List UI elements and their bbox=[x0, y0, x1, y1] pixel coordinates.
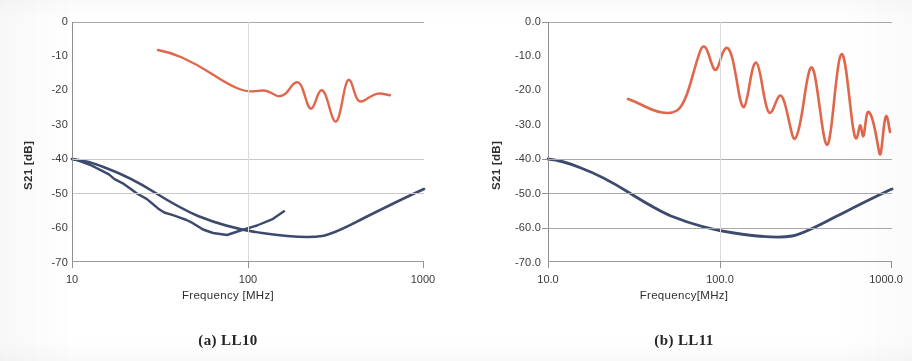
y-tick-label: -20 bbox=[22, 84, 68, 95]
panel-ll10: S21 [dB] 0 -10 -20 -30 -40 -50 -60 -70 bbox=[0, 0, 456, 361]
y-tick-label: -60 bbox=[22, 222, 68, 233]
y-axis-title-a: S21 [dB] bbox=[22, 141, 34, 190]
panel-caption-b: (b) LL11 bbox=[456, 332, 912, 349]
y-axis-line-b bbox=[548, 22, 549, 262]
y-tick-label: 0 bbox=[22, 16, 68, 27]
y-tick-label: -30.0 bbox=[489, 119, 541, 130]
y-tick-label: -50 bbox=[22, 188, 68, 199]
panel-caption-a: (a) LL10 bbox=[0, 332, 456, 349]
y-tick-label: -40 bbox=[22, 153, 68, 164]
y-tick-minus50 bbox=[542, 193, 548, 194]
y-tick-label: -10 bbox=[22, 50, 68, 61]
x-tick-1000 bbox=[423, 262, 424, 268]
x-tick-100 bbox=[720, 262, 721, 268]
x-tick-label: 1000 bbox=[400, 274, 446, 285]
y-tick-label: -20.0 bbox=[489, 84, 541, 95]
y-tick-minus40 bbox=[542, 159, 548, 160]
y-tick-label: -10.0 bbox=[489, 50, 541, 61]
y-tick-label: 0.0 bbox=[489, 16, 541, 27]
red-trace-a bbox=[158, 50, 390, 122]
x-tick-10 bbox=[548, 262, 549, 268]
figure-container: S21 [dB] 0 -10 -20 -30 -40 -50 -60 -70 bbox=[0, 0, 912, 361]
panel-ll11: S21 [dB] 0.0 -10.0 -20.0 -30.0 -40.0 -50… bbox=[456, 0, 912, 361]
x-tick-100 bbox=[248, 262, 249, 268]
y-axis-title-b: S21 [dB] bbox=[490, 141, 502, 190]
y-tick-0 bbox=[542, 22, 548, 23]
plot-area-ll10 bbox=[72, 22, 424, 262]
y-tick-label: -70.0 bbox=[489, 257, 541, 268]
x-tick-label: 100 bbox=[228, 274, 268, 285]
x-tick-label: 10 bbox=[54, 274, 90, 285]
y-tick-label: -60.0 bbox=[489, 222, 541, 233]
x-tick-label: 100.0 bbox=[696, 274, 744, 285]
x-axis-title-a: Frequency [MHz] bbox=[0, 289, 456, 301]
x-tick-10 bbox=[72, 262, 73, 268]
x-tick-label: 1000.0 bbox=[860, 274, 912, 285]
y-tick-label: -40.0 bbox=[489, 153, 541, 164]
x-tick-1000 bbox=[891, 262, 892, 268]
x-axis-title-b: Frequency[MHz] bbox=[456, 289, 912, 301]
gridline-100mhz bbox=[248, 22, 249, 262]
y-axis-line-a bbox=[72, 22, 73, 262]
red-trace-b bbox=[628, 46, 890, 154]
y-tick-label: -30 bbox=[22, 119, 68, 130]
gridline-100mhz bbox=[720, 22, 721, 262]
y-tick-minus60 bbox=[542, 228, 548, 229]
y-tick-label: -50.0 bbox=[489, 188, 541, 199]
x-tick-label: 10.0 bbox=[526, 274, 570, 285]
y-tick-label: -70 bbox=[22, 257, 68, 268]
plot-area-ll11 bbox=[548, 22, 892, 262]
blue-trace-a bbox=[72, 159, 284, 235]
